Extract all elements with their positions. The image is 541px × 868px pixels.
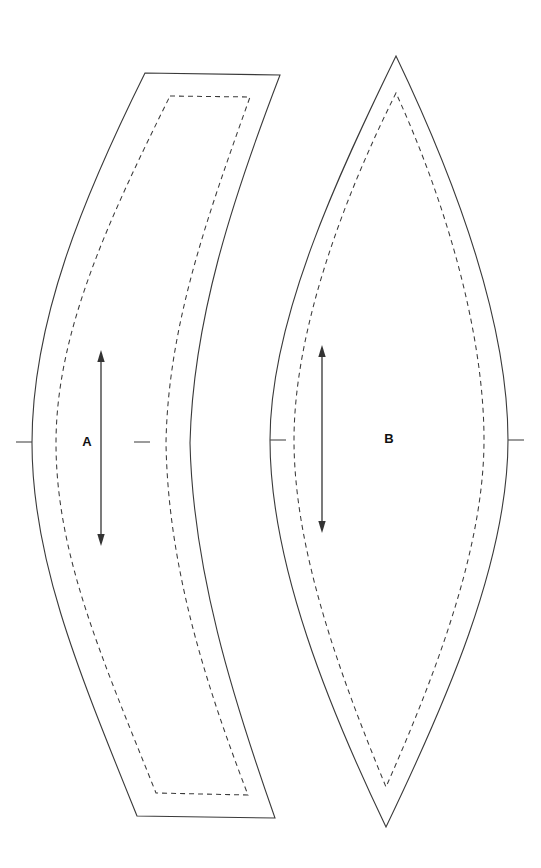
cut-line-piece-a [32, 73, 280, 818]
grainline-piece-a [97, 350, 104, 546]
pattern-piece-a[interactable]: A [16, 73, 280, 818]
grainline-arrowhead-top-piece-a [97, 350, 104, 362]
pattern-piece-b[interactable]: B [270, 56, 524, 827]
grainline-arrowhead-bottom-piece-a [97, 534, 104, 546]
pattern-sheet: A B [0, 0, 541, 868]
pattern-canvas: A B [0, 0, 541, 868]
grainline-piece-b [318, 345, 325, 533]
grainline-arrowhead-top-piece-b [318, 345, 325, 357]
piece-label-a: A [82, 434, 92, 449]
grainline-arrowhead-bottom-piece-b [318, 521, 325, 533]
piece-label-b: B [384, 431, 393, 446]
